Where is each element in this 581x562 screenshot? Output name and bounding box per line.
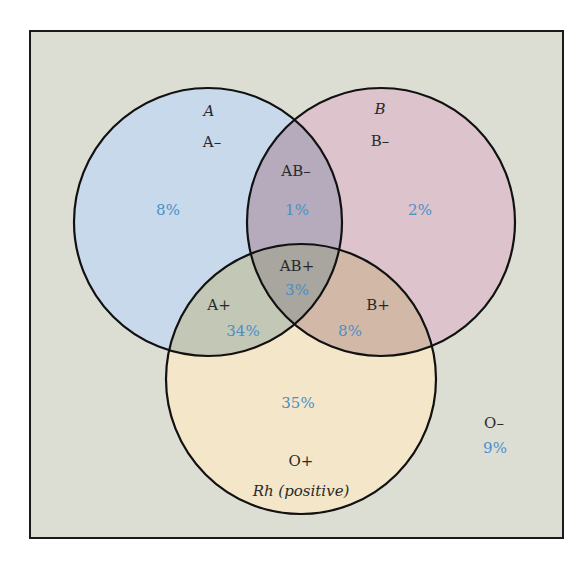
region-a-pos-percent: 34% xyxy=(226,324,259,339)
set-a-label: A xyxy=(204,104,215,119)
region-ab-neg-percent: 1% xyxy=(285,203,309,218)
region-a-neg-percent: 8% xyxy=(156,203,180,218)
region-o-pos-label: O+ xyxy=(289,454,314,469)
region-ab-pos-label: AB+ xyxy=(280,259,314,274)
set-rh-label: Rh (positive) xyxy=(253,484,350,499)
region-b-pos-label: B+ xyxy=(366,298,390,313)
region-b-neg-label: B– xyxy=(371,134,390,149)
venn-diagram-stage: A B Rh (positive) A– 8% AB– 1% B– 2% AB+… xyxy=(0,0,581,562)
region-a-pos-label: A+ xyxy=(207,298,230,313)
region-a-neg-label: A– xyxy=(203,135,221,150)
region-o-neg-percent: 9% xyxy=(483,441,507,456)
region-ab-neg-label: AB– xyxy=(281,164,310,179)
region-b-neg-percent: 2% xyxy=(408,203,432,218)
region-b-pos-percent: 8% xyxy=(338,324,362,339)
region-o-neg-label: O– xyxy=(484,416,504,431)
set-b-label: B xyxy=(374,102,385,117)
region-ab-pos-percent: 3% xyxy=(285,283,309,298)
region-o-pos-percent: 35% xyxy=(281,396,314,411)
